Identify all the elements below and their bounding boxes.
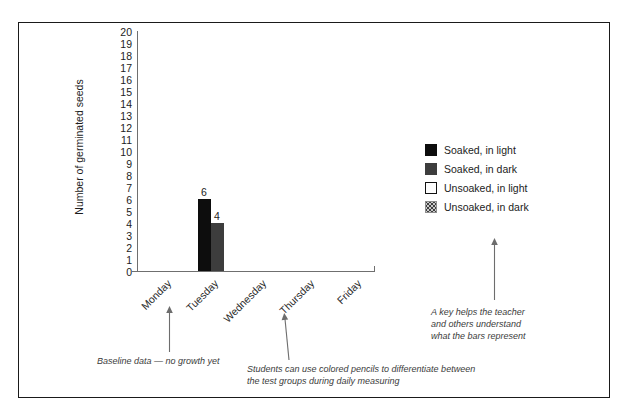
y-tick-11: 11: [121, 135, 132, 145]
y-axis-zero-tick: [132, 271, 138, 272]
y-tick-14: 14: [120, 99, 132, 109]
y-axis-tick-labels: 20 19 18 17 16 15 14 13 12 11 10 9 8 7 6…: [99, 27, 132, 277]
legend-label-unsoaked-in-light: Unsoaked, in light: [444, 182, 527, 194]
legend-item-unsoaked-in-light[interactable]: Unsoaked, in light: [425, 179, 605, 197]
y-tick-5: 5: [126, 207, 132, 217]
y-tick-10: 10: [120, 147, 132, 157]
legend-label-soaked-in-light: Soaked, in light: [444, 144, 516, 156]
legend-swatch-white-outlined-icon: [425, 182, 437, 194]
y-tick-8: 8: [126, 171, 132, 181]
legend-swatch-dotted-gray-icon: [425, 201, 437, 213]
legend-label-soaked-in-dark: Soaked, in dark: [444, 163, 517, 175]
legend-item-soaked-in-dark[interactable]: Soaked, in dark: [425, 160, 605, 178]
y-tick-15: 15: [120, 87, 132, 97]
legend-item-soaked-in-light[interactable]: Soaked, in light: [425, 141, 605, 159]
y-tick-19: 19: [120, 39, 132, 49]
y-tick-18: 18: [120, 51, 132, 61]
annotation-arrow-baseline-icon: [164, 306, 175, 352]
legend-label-unsoaked-in-dark: Unsoaked, in dark: [444, 201, 529, 213]
annotation-baseline-text: Baseline data — no growth yet: [97, 355, 220, 367]
y-axis-title: Number of germinated seeds: [73, 57, 85, 237]
annotation-arrow-key-icon: [489, 238, 500, 300]
annotation-key-text: A key helps the teacher and others under…: [431, 306, 526, 342]
y-tick-3: 3: [126, 231, 132, 241]
y-tick-6: 6: [126, 195, 132, 205]
y-tick-20: 20: [120, 27, 132, 37]
bar-soaked-in-dark-tuesday[interactable]: [211, 223, 224, 271]
legend-swatch-solid-dark-gray-icon: [425, 163, 437, 175]
bar-value-label-6: 6: [197, 186, 211, 198]
y-tick-2: 2: [126, 243, 132, 253]
y-tick-7: 7: [126, 183, 132, 193]
y-tick-0: 0: [126, 267, 132, 277]
x-tick-wednesday: Wednesday: [215, 277, 269, 331]
annotation-pencils-text: Students can use colored pencils to diff…: [247, 363, 475, 387]
figure-frame: 20 19 18 17 16 15 14 13 12 11 10 9 8 7 6…: [18, 22, 610, 398]
bar-value-label-4: 4: [210, 210, 224, 222]
bar-chart-plot-area: 20 19 18 17 16 15 14 13 12 11 10 9 8 7 6…: [19, 23, 610, 398]
y-tick-1: 1: [126, 255, 132, 265]
y-tick-4: 4: [126, 219, 132, 229]
x-axis-line: [137, 271, 375, 272]
legend-item-unsoaked-in-dark[interactable]: Unsoaked, in dark: [425, 198, 605, 216]
annotation-arrow-pencils-icon: [281, 313, 292, 360]
x-tick-friday: Friday: [310, 277, 364, 331]
y-tick-12: 12: [120, 123, 132, 133]
y-tick-17: 17: [120, 63, 132, 73]
y-axis-line: [137, 31, 138, 272]
x-tick-tuesday: Tuesday: [167, 277, 221, 331]
y-tick-13: 13: [120, 111, 132, 121]
x-axis-end-tick: [374, 266, 375, 272]
legend-swatch-solid-black-icon: [425, 144, 437, 156]
chart-legend: Soaked, in light Soaked, in dark Unsoake…: [425, 141, 605, 217]
y-tick-9: 9: [126, 159, 132, 169]
y-tick-16: 16: [120, 75, 132, 85]
